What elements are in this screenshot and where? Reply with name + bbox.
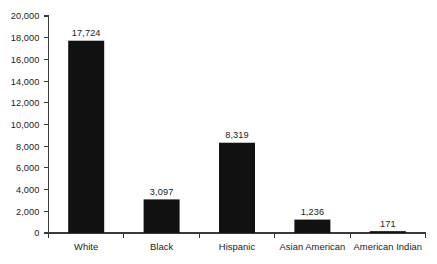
bar bbox=[294, 220, 330, 233]
category-labels: WhiteBlackHispanicAsian AmericanAmerican… bbox=[74, 241, 422, 252]
bar bbox=[68, 41, 104, 233]
category-label: Black bbox=[150, 241, 173, 252]
bar-value-label: 171 bbox=[380, 219, 396, 229]
bar bbox=[370, 231, 406, 233]
bar-chart: 02,0004,0006,0008,00010,00012,00014,0001… bbox=[0, 0, 437, 264]
bar-value-label: 17,724 bbox=[72, 28, 101, 38]
y-axis-tick-label: 8,000 bbox=[16, 142, 40, 152]
y-axis-tick-label: 10,000 bbox=[11, 120, 40, 130]
bar-value-label: 8,319 bbox=[225, 130, 249, 140]
y-axis-tick-label: 16,000 bbox=[11, 55, 40, 65]
chart-canvas: 02,0004,0006,0008,00010,00012,00014,0001… bbox=[0, 0, 437, 264]
y-axis-tick-label: 12,000 bbox=[11, 98, 40, 108]
category-label: Asian American bbox=[279, 241, 345, 252]
y-axis-tick-label: 20,000 bbox=[11, 11, 40, 21]
bar bbox=[219, 143, 255, 233]
category-label: Hispanic bbox=[219, 241, 256, 252]
y-axis-tick-label: 0 bbox=[34, 228, 39, 238]
x-axis bbox=[49, 233, 426, 238]
bar-value-label: 3,097 bbox=[150, 187, 174, 197]
y-axis-tick-label: 2,000 bbox=[16, 207, 40, 217]
category-label: American Indian bbox=[354, 241, 423, 252]
category-label: White bbox=[74, 241, 98, 252]
y-axis-tick-label: 14,000 bbox=[11, 77, 40, 87]
y-axis-tick-label: 18,000 bbox=[11, 33, 40, 43]
y-axis-tick-label: 4,000 bbox=[16, 185, 40, 195]
bar bbox=[144, 199, 180, 233]
y-axis: 02,0004,0006,0008,00010,00012,00014,0001… bbox=[11, 11, 49, 238]
y-axis-tick-label: 6,000 bbox=[16, 163, 40, 173]
bar-value-label: 1,236 bbox=[301, 207, 325, 217]
